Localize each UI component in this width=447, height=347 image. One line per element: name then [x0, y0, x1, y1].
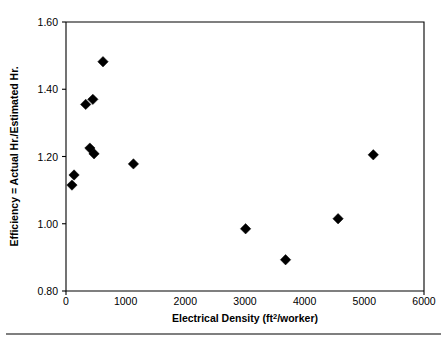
y-tick-label: 0.80 — [38, 285, 59, 297]
x-tick-label: 0 — [63, 295, 69, 307]
x-tick-label: 5000 — [353, 295, 377, 307]
x-tick-label: 2000 — [174, 295, 198, 307]
y-axis-title: Efficiency = Actual Hr./Estimated Hr. — [8, 66, 20, 246]
y-tick-label: 1.40 — [38, 83, 59, 95]
y-tick-label: 1.20 — [38, 151, 59, 163]
y-tick-label: 1.60 — [38, 16, 59, 28]
x-tick-label: 6000 — [412, 295, 436, 307]
x-tick-label: 4000 — [293, 295, 317, 307]
x-tick-label: 3000 — [233, 295, 257, 307]
scatter-plot: 1.60 1.40 1.20 1.00 0.80 0 1000 2000 300… — [0, 0, 447, 347]
y-tick-label: 1.00 — [38, 218, 59, 230]
chart-figure: 1.60 1.40 1.20 1.00 0.80 0 1000 2000 300… — [0, 0, 447, 347]
x-axis-title: Electrical Density (ft2/worker) — [172, 312, 318, 325]
x-axis-title-base: Electrical Density (ft — [172, 312, 273, 324]
x-tick-label: 1000 — [114, 295, 138, 307]
x-axis-title-tail: /worker) — [277, 312, 318, 324]
